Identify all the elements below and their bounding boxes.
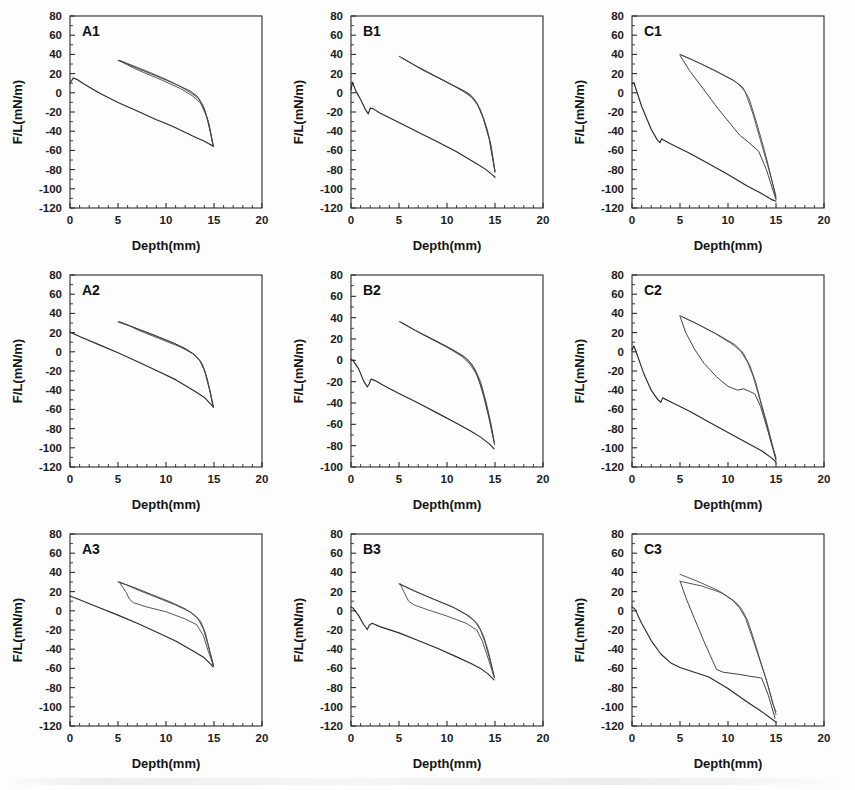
y-tick-label: -20 xyxy=(326,376,343,388)
y-tick-label: 0 xyxy=(337,87,343,99)
x-axis-title: Depth(mm) xyxy=(694,238,763,253)
curve-immersion xyxy=(351,359,494,449)
x-tick-label: 0 xyxy=(629,214,635,226)
y-tick-label: -40 xyxy=(45,384,62,396)
y-tick-label: -20 xyxy=(607,365,624,377)
y-tick-label: -40 xyxy=(45,125,62,137)
x-tick-label: 20 xyxy=(537,473,550,485)
y-tick-label: 0 xyxy=(618,87,624,99)
curve-emersion-c xyxy=(120,61,214,146)
y-tick-label: 20 xyxy=(49,327,62,339)
y-tick-label: -40 xyxy=(45,643,62,655)
curve-immersion xyxy=(70,78,213,146)
panel-label: A3 xyxy=(82,541,100,557)
y-tick-label: 20 xyxy=(611,586,624,598)
y-axis-title: F/L(mN/m) xyxy=(291,339,306,403)
x-tick-label: 10 xyxy=(441,473,454,485)
curve-emersion-mid xyxy=(681,55,776,199)
curve-emersion-b xyxy=(401,57,495,171)
y-tick-label: -100 xyxy=(39,183,62,195)
y-tick-label: 0 xyxy=(618,346,624,358)
y-tick-label: -20 xyxy=(45,624,62,636)
panel-label: C1 xyxy=(644,23,662,39)
x-tick-label: 0 xyxy=(629,732,635,744)
x-tick-label: 10 xyxy=(160,732,173,744)
x-axis-title: Depth(mm) xyxy=(694,756,763,771)
curve-immersion xyxy=(351,607,494,680)
plot-frame xyxy=(632,275,824,467)
y-axis-title: F/L(mN/m) xyxy=(291,80,306,144)
x-tick-label: 5 xyxy=(677,473,684,485)
curve-emersion-b xyxy=(119,582,214,666)
x-axis-title: Depth(mm) xyxy=(132,756,201,771)
figure-root: 05101520-120-100-80-60-40-20020406080A1D… xyxy=(0,0,855,790)
y-axis-title: F/L(mN/m) xyxy=(10,339,25,403)
curve-emersion-a xyxy=(399,584,494,676)
y-tick-label: -120 xyxy=(39,461,62,473)
y-tick-label: 20 xyxy=(611,68,624,80)
y-axis-title: F/L(mN/m) xyxy=(10,80,25,144)
y-tick-label: -100 xyxy=(320,701,343,713)
panel-b1: 05101520-120-100-80-60-40-20020406080B1D… xyxy=(281,0,566,263)
curve-emersion-a xyxy=(118,61,213,146)
panel-label: A2 xyxy=(82,282,100,298)
x-tick-label: 20 xyxy=(537,732,550,744)
curve-emersion-c xyxy=(401,584,495,678)
y-tick-label: -100 xyxy=(39,701,62,713)
x-tick-label: 20 xyxy=(818,473,831,485)
y-tick-label: 60 xyxy=(611,288,624,300)
x-tick-label: 0 xyxy=(629,473,635,485)
curve-emersion-inner xyxy=(680,316,776,460)
curve-emersion-outer xyxy=(680,574,776,711)
y-tick-label: 80 xyxy=(330,528,343,540)
x-tick-label: 5 xyxy=(396,732,403,744)
panel-a3: 05101520-120-100-80-60-40-20020406080A3D… xyxy=(0,518,285,781)
y-tick-label: 0 xyxy=(337,354,343,366)
x-tick-label: 15 xyxy=(489,473,502,485)
y-tick-label: 40 xyxy=(611,307,624,319)
x-tick-label: 5 xyxy=(115,473,122,485)
y-tick-label: -60 xyxy=(45,144,62,156)
y-tick-label: -40 xyxy=(326,397,343,409)
y-tick-label: -120 xyxy=(39,202,62,214)
x-tick-label: 20 xyxy=(256,473,269,485)
x-tick-label: 10 xyxy=(441,214,454,226)
y-tick-label: 40 xyxy=(330,312,343,324)
y-tick-label: 20 xyxy=(611,327,624,339)
x-tick-label: 5 xyxy=(677,732,684,744)
curve-emersion-b xyxy=(400,583,494,677)
curve-emersion-c xyxy=(402,323,495,445)
y-tick-label: 40 xyxy=(611,566,624,578)
curve-emersion-a xyxy=(399,56,495,170)
y-tick-label: -80 xyxy=(607,682,624,694)
x-tick-label: 15 xyxy=(770,214,783,226)
y-tick-label: 40 xyxy=(330,48,343,60)
y-tick-label: 60 xyxy=(611,29,624,41)
x-tick-label: 15 xyxy=(770,473,783,485)
y-axis-title: F/L(mN/m) xyxy=(572,339,587,403)
y-tick-label: -120 xyxy=(601,720,624,732)
y-tick-label: 0 xyxy=(618,605,624,617)
y-tick-label: -60 xyxy=(326,662,343,674)
panel-a2: 05101520-120-100-80-60-40-20020406080A2D… xyxy=(0,259,285,522)
y-tick-label: 20 xyxy=(49,586,62,598)
y-tick-label: 80 xyxy=(611,528,624,540)
y-tick-label: -80 xyxy=(45,682,62,694)
y-tick-label: -60 xyxy=(45,403,62,415)
y-tick-label: -120 xyxy=(601,202,624,214)
panel-c2: 05101520-120-100-80-60-40-20020406080C2D… xyxy=(562,259,847,522)
panel-label: C2 xyxy=(644,282,662,298)
x-axis-title: Depth(mm) xyxy=(413,756,482,771)
x-tick-label: 20 xyxy=(256,214,269,226)
x-tick-label: 10 xyxy=(160,473,173,485)
y-tick-label: -20 xyxy=(326,106,343,118)
y-tick-label: 80 xyxy=(49,10,62,22)
curve-emersion-inner xyxy=(680,581,775,718)
y-tick-label: -40 xyxy=(326,643,343,655)
y-tick-label: -40 xyxy=(607,643,624,655)
y-tick-label: -100 xyxy=(320,461,343,473)
curve-emersion-mid xyxy=(682,317,776,460)
panel-label: B3 xyxy=(363,541,381,557)
x-tick-label: 10 xyxy=(722,473,735,485)
x-tick-label: 5 xyxy=(677,214,684,226)
